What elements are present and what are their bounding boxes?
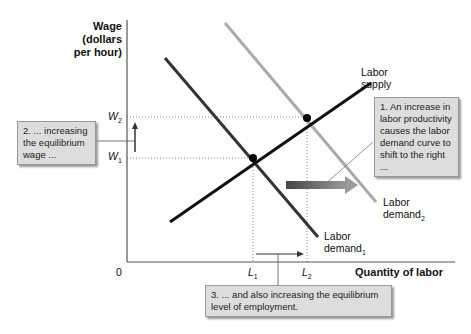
y-axis-label: Wage (dollars per hour) xyxy=(40,20,122,59)
labor-demand-1-label: Labor demand1 xyxy=(324,230,366,259)
employment-arrow-head xyxy=(297,251,304,257)
w2-tick: W2 xyxy=(108,110,122,124)
labor-supply-label: Labor supply xyxy=(361,66,391,90)
annotation-2: 2. ... increasing the equilibrium wage .… xyxy=(17,121,96,165)
labor-demand-2-curve xyxy=(225,23,376,202)
w1-tick: W1 xyxy=(108,150,122,164)
annotation-1: 1. An increase in labor productivity cau… xyxy=(374,97,459,177)
equilibrium-point-1 xyxy=(249,154,257,162)
labor-supply-curve xyxy=(170,83,371,222)
shift-arrow-body xyxy=(286,181,346,189)
y-label-line: Wage xyxy=(40,20,122,33)
origin-label: 0 xyxy=(116,266,122,278)
wage-arrow-head xyxy=(132,122,138,129)
equilibrium-point-2 xyxy=(303,114,311,122)
l2-tick: L2 xyxy=(302,266,312,280)
y-label-line: (dollars xyxy=(40,33,122,46)
y-label-line: per hour) xyxy=(40,46,122,59)
l1-tick: L1 xyxy=(248,266,258,280)
annotation-3: 3. ... and also increasing the equilibri… xyxy=(205,285,392,317)
x-axis-label: Quantity of labor xyxy=(355,266,443,278)
labor-demand-2-label: Labor demand2 xyxy=(383,196,425,225)
